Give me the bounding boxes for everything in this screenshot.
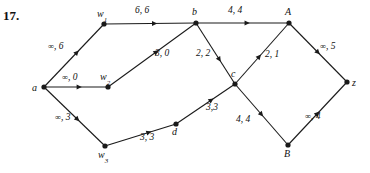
edge-label-w2-b: 3, 0 xyxy=(155,49,169,59)
graph-edge xyxy=(235,23,289,84)
node-label-B: B xyxy=(284,149,290,159)
graph-node-c xyxy=(232,81,237,86)
node-label-z: z xyxy=(352,78,356,88)
edge-direction-arrow xyxy=(77,84,82,89)
graph-node-z xyxy=(344,79,349,84)
network-flow-graph xyxy=(0,0,370,173)
edge-label-w3-d: 3, 3 xyxy=(140,133,154,143)
edge-direction-arrow xyxy=(152,21,157,26)
graph-edge xyxy=(104,23,196,24)
edge-label-c-A: 2, 1 xyxy=(265,50,279,60)
node-label-w2: w2 xyxy=(100,72,110,85)
edge-label-A-z: ∞, 5 xyxy=(320,42,336,52)
graph-node-b xyxy=(193,20,198,25)
edge-label-B-z: ∞, 4 xyxy=(305,112,321,122)
graph-node-B xyxy=(285,142,290,147)
edge-direction-arrow xyxy=(245,20,250,25)
edge-label-a-w1: ∞, 6 xyxy=(48,42,64,52)
edge-label-c-B: 4, 4 xyxy=(236,115,250,125)
edge-label-w1-b: 6, 6 xyxy=(135,6,149,16)
node-label-A: A xyxy=(285,7,291,17)
node-label-c: c xyxy=(231,69,235,79)
graph-edge xyxy=(108,23,196,87)
graph-node-a xyxy=(41,84,46,89)
graph-node-w3 xyxy=(102,143,107,148)
figure-canvas: 17. ∞, 6∞, 0∞, 36, 63, 04, 42, 22, 13, 3… xyxy=(0,0,370,173)
edge-label-d-c: 3,3 xyxy=(206,103,218,113)
node-label-w1: w1 xyxy=(97,9,107,22)
graph-edge xyxy=(44,87,105,146)
node-label-a: a xyxy=(32,83,37,93)
node-label-w3: w3 xyxy=(98,150,108,163)
node-label-d: d xyxy=(172,127,177,137)
node-label-b: b xyxy=(192,7,197,17)
edge-label-b-c: 2, 2 xyxy=(196,49,210,59)
edge-label-b-A: 4, 4 xyxy=(228,6,242,16)
edge-label-a-w2: ∞, 0 xyxy=(62,73,78,83)
edge-label-a-w3: ∞, 3 xyxy=(55,113,71,123)
graph-node-A xyxy=(286,20,291,25)
